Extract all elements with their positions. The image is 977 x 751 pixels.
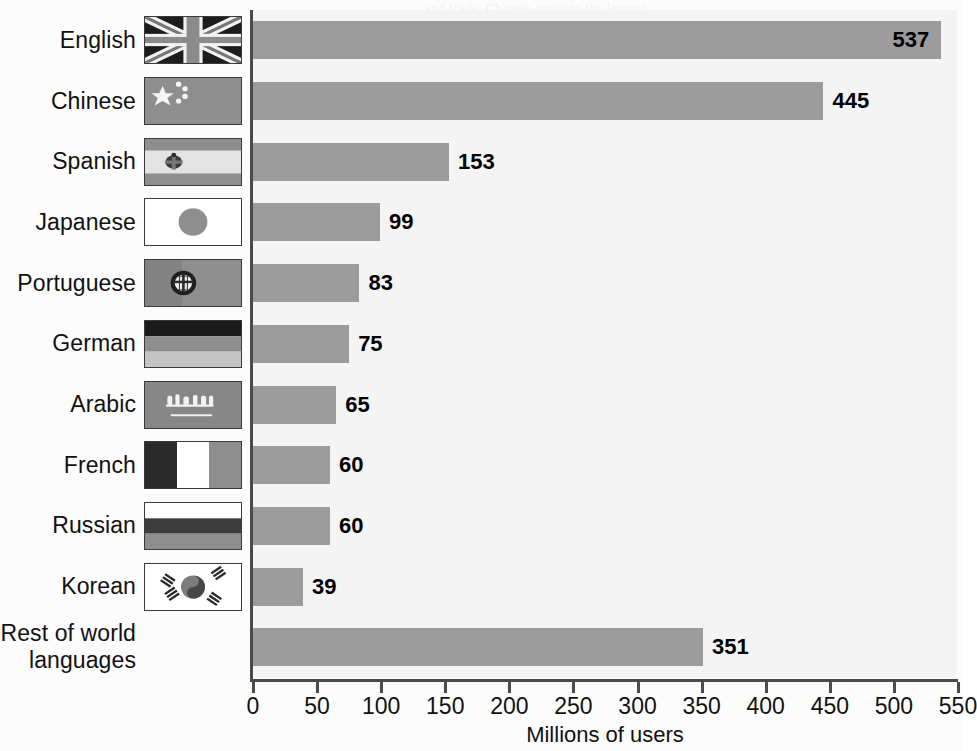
bar-value-label: 99 (389, 209, 413, 235)
x-axis-tick-label: 200 (490, 693, 528, 720)
bar-track: 39 (253, 556, 958, 617)
x-axis-tick-label: 300 (618, 693, 656, 720)
category-label: Rest of world languages (0, 620, 136, 674)
bar-track: 65 (253, 374, 958, 435)
x-axis-tick (765, 682, 768, 693)
bar-track: 445 (253, 71, 958, 132)
category-label-cell: Japanese (0, 192, 136, 253)
bar: 537 (253, 21, 941, 59)
bar-value-label: 60 (339, 452, 363, 478)
bar-row: English 537 (0, 10, 962, 71)
category-label: Portuguese (17, 270, 136, 297)
x-axis-tick (893, 682, 896, 693)
bar-value-label: 39 (312, 574, 336, 600)
category-label-cell: German (0, 314, 136, 375)
category-label: Russian (52, 512, 136, 539)
category-label-cell: Portuguese (0, 253, 136, 314)
bar-track: 60 (253, 435, 958, 496)
bar-value-label: 65 (345, 392, 369, 418)
category-label: Chinese (51, 88, 136, 115)
x-axis-tick-label: 50 (304, 693, 330, 720)
category-label: Arabic (70, 391, 136, 418)
x-axis-tick-label: 0 (247, 693, 260, 720)
category-label-cell: English (0, 10, 136, 71)
x-axis-tick (252, 682, 255, 693)
bar-value-label: 537 (893, 27, 930, 53)
bar-value-label: 60 (339, 513, 363, 539)
x-axis-tick-label: 100 (362, 693, 400, 720)
x-axis-tick (444, 682, 447, 693)
bar: 60 (253, 446, 330, 484)
bar: 99 (253, 203, 380, 241)
category-label: German (52, 330, 136, 357)
x-axis-tick-label: 150 (426, 693, 464, 720)
category-label: English (60, 27, 136, 54)
bar-value-label: 445 (832, 88, 869, 114)
x-axis-tick (829, 682, 832, 693)
category-label-cell: Korean (0, 556, 136, 617)
x-axis-tick (701, 682, 704, 693)
x-axis-tick-label: 500 (875, 693, 913, 720)
bar-row: Korean 39 (0, 556, 962, 617)
x-axis-title: Millions of users (252, 722, 958, 748)
bar-track: 537 (253, 10, 958, 71)
bar-track: 60 (253, 496, 958, 557)
bar-row: Russian 60 (0, 496, 962, 557)
portugal-flag-icon (144, 259, 242, 307)
bar-value-label: 83 (368, 270, 392, 296)
bar-track: 153 (253, 131, 958, 192)
x-axis-tick (572, 682, 575, 693)
germany-flag-icon (144, 320, 242, 368)
x-axis-tick-labels: 050100150200250300350400450500550 (0, 693, 962, 723)
south-korea-flag-icon (144, 563, 242, 611)
bar-row: Spanish 153 (0, 131, 962, 192)
x-axis-tick (508, 682, 511, 693)
bar-row: French 60 (0, 435, 962, 496)
bar-track: 99 (253, 192, 958, 253)
category-label-cell: Spanish (0, 131, 136, 192)
x-axis-tick-label: 450 (811, 693, 849, 720)
bar-row: Chinese 445 (0, 71, 962, 132)
x-axis-tick (637, 682, 640, 693)
category-label: Korean (61, 573, 136, 600)
category-label: Spanish (52, 148, 136, 175)
bar: 83 (253, 264, 359, 302)
bar: 445 (253, 82, 823, 120)
category-label-cell: Russian (0, 496, 136, 557)
category-label-cell: Chinese (0, 71, 136, 132)
x-axis-tick (380, 682, 383, 693)
bar: 65 (253, 386, 336, 424)
x-axis-tick-label: 550 (939, 693, 977, 720)
bar: 75 (253, 325, 349, 363)
spain-flag-icon (144, 138, 242, 186)
bar-row: German 75 (0, 314, 962, 375)
bar-row: Rest of world languages351 (0, 617, 962, 678)
bar: 39 (253, 568, 303, 606)
category-label: Japanese (35, 209, 136, 236)
bar-track: 351 (253, 617, 958, 678)
x-axis-tick (957, 682, 960, 693)
saudi-arabia-flag-icon (144, 381, 242, 429)
bar-row: Japanese 99 (0, 192, 962, 253)
china-flag-icon (144, 77, 242, 125)
bar-value-label: 75 (358, 331, 382, 357)
x-axis-tick (316, 682, 319, 693)
bar-value-label: 153 (458, 149, 495, 175)
x-axis-tick-label: 250 (554, 693, 592, 720)
uk-flag-icon (144, 16, 242, 64)
x-axis-tick-label: 350 (682, 693, 720, 720)
category-label-cell: Arabic (0, 374, 136, 435)
bar: 351 (253, 628, 703, 666)
bar-value-label: 351 (712, 634, 749, 660)
bar: 60 (253, 507, 330, 545)
x-axis-tick-label: 400 (747, 693, 785, 720)
bar-track: 75 (253, 314, 958, 375)
bar: 153 (253, 143, 449, 181)
category-label-cell: French (0, 435, 136, 496)
france-flag-icon (144, 441, 242, 489)
russia-flag-icon (144, 502, 242, 550)
category-label-cell: Rest of world languages (0, 617, 136, 678)
bar-row: Portuguese 83 (0, 253, 962, 314)
japan-flag-icon (144, 198, 242, 246)
